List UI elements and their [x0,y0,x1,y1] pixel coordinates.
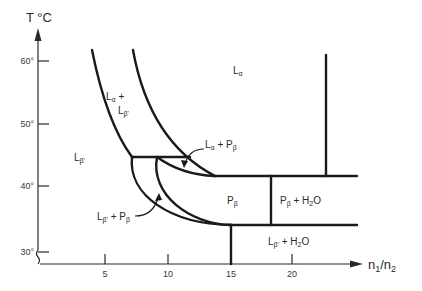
boundary-l-beta-p-beta-outer [132,157,231,225]
y-axis-arrow-icon [35,28,42,41]
label-l-beta-prime-plus-p-beta: Lβ' + Pβ [97,211,130,224]
x-axis-arrow-icon [350,261,363,268]
x-tick-label-5: 5 [102,269,107,279]
y-tick-label-50: 50° [20,119,34,129]
y-axis-label: T °C [26,10,52,25]
x-tick-label-10: 10 [163,269,173,279]
x-axis: 5 10 15 20 n1/n2 [40,254,396,279]
label-l-alpha: Lα [233,65,243,77]
y-tick-label-60: 60° [20,56,34,66]
label-p-beta: Pβ [227,195,238,208]
x-tick-label-20: 20 [287,269,297,279]
label-l-alpha-plus-p-beta: Lα + Pβ [205,139,237,152]
y-axis: T °C 60° 50° 40° 30° [20,10,52,264]
label-l-alpha-plus-l-beta: Lα + [106,91,124,103]
x-axis-label: n1/n2 [368,257,396,274]
phase-diagram: T °C 60° 50° 40° 30° 5 10 15 20 n1/n2 [0,0,422,291]
label-l-beta-prime: Lβ' [74,152,85,165]
label-p-beta-plus-h2o: Pβ + H2O [280,195,321,208]
pointers [135,149,204,216]
phase-boundaries [92,50,357,264]
pointer-arrow-icon [181,160,188,168]
label-l-beta-prime-line2: Lβ' [118,105,129,118]
label-l-beta-prime-plus-h2o: Lβ' + H2O [268,236,309,249]
pointer-arrow-icon [155,193,162,201]
y-tick-label-40: 40° [20,181,34,191]
y-tick-label-30: 30° [20,247,34,257]
boundary-p-beta-lower [156,157,231,225]
pointer-l-beta-p-beta [135,197,158,216]
boundary-l-beta-left [92,50,132,157]
x-tick-label-15: 15 [226,269,236,279]
